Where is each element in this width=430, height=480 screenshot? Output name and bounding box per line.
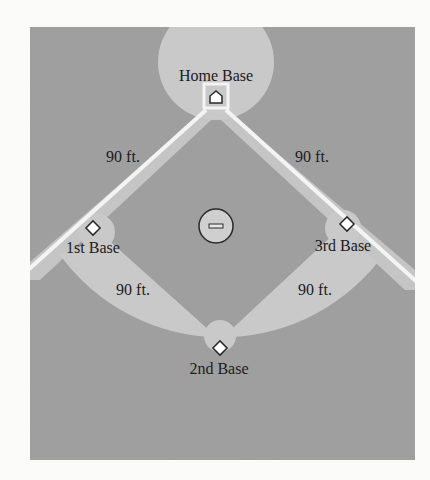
second-base-label: 2nd Base (189, 360, 248, 377)
diamond-svg: Home Base 1st Base 3rd Base 2nd Base 90 … (0, 0, 430, 480)
pitchers-rubber-icon (209, 224, 223, 228)
distance-first-to-second-label: 90 ft. (116, 281, 150, 298)
first-base-label: 1st Base (66, 239, 120, 256)
baseball-diamond-figure: Home Base 1st Base 3rd Base 2nd Base 90 … (0, 0, 430, 480)
distance-home-to-third-label: 90 ft. (295, 148, 329, 165)
home-base-label: Home Base (179, 67, 253, 84)
third-base-label: 3rd Base (315, 237, 371, 254)
distance-third-to-second-label: 90 ft. (298, 281, 332, 298)
distance-home-to-first-label: 90 ft. (106, 148, 140, 165)
